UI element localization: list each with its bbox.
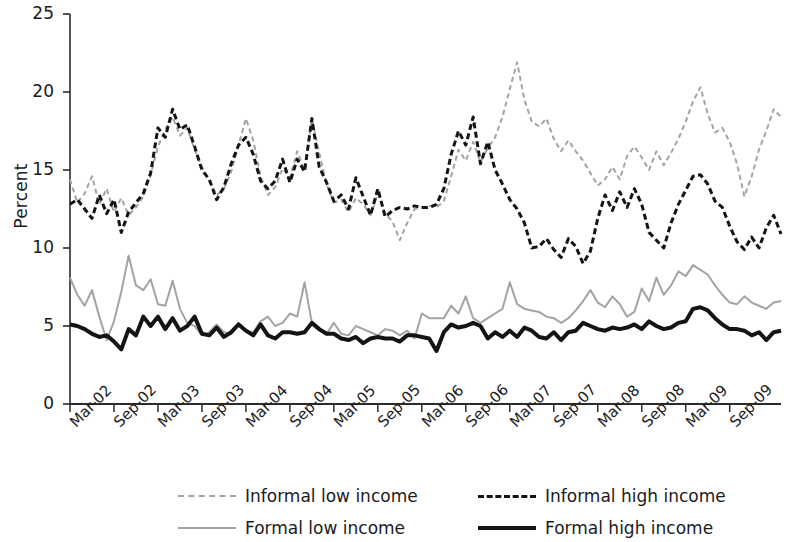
legend-item-informal-high-income: Informal high income bbox=[478, 486, 758, 506]
chart-legend: Informal low income Informal high income… bbox=[178, 486, 758, 538]
legend-label: Informal high income bbox=[545, 486, 726, 506]
y-tick-label: 15 bbox=[20, 159, 54, 179]
series-line-informal-high-income bbox=[70, 109, 781, 263]
solid-dark-line-swatch bbox=[478, 526, 536, 530]
legend-item-informal-low-income: Informal low income bbox=[178, 486, 478, 506]
y-tick-label: 10 bbox=[20, 237, 54, 257]
solid-light-line-swatch bbox=[178, 527, 236, 529]
y-tick-label: 20 bbox=[20, 81, 54, 101]
y-tick-label: 0 bbox=[20, 393, 54, 413]
dashed-dark-line-swatch bbox=[478, 495, 536, 498]
legend-item-formal-high-income: Formal high income bbox=[478, 518, 758, 538]
legend-label: Formal high income bbox=[545, 518, 713, 538]
series-line-formal-high-income bbox=[70, 307, 781, 351]
y-tick-label: 5 bbox=[20, 315, 54, 335]
y-axis-title: Percent bbox=[11, 141, 31, 251]
legend-item-formal-low-income: Formal low income bbox=[178, 518, 478, 538]
y-tick-label: 25 bbox=[20, 3, 54, 23]
line-chart-figure: Percent 0510152025 Mar-02Sep-02Mar-03Sep… bbox=[0, 0, 787, 542]
legend-label: Informal low income bbox=[245, 486, 418, 506]
plot-canvas bbox=[0, 0, 787, 542]
legend-label: Formal low income bbox=[245, 518, 405, 538]
dashed-light-line-swatch bbox=[178, 495, 236, 497]
